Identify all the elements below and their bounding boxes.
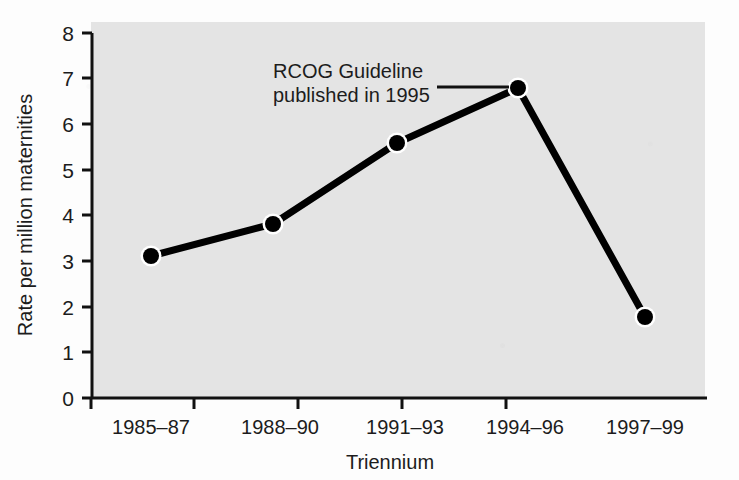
x-tick-label-1985-87: 1985–87 bbox=[112, 416, 190, 438]
figure-page: 8 7 6 5 4 3 2 1 0 Rate per million mater… bbox=[0, 0, 739, 480]
y-tick-label-1: 1 bbox=[62, 341, 74, 364]
y-tick-label-4: 4 bbox=[62, 204, 74, 227]
y-tick-label-8: 8 bbox=[62, 22, 74, 45]
x-axis-ticks bbox=[91, 398, 506, 409]
data-point-1994-96 bbox=[510, 80, 526, 96]
x-tick-label-1994-96: 1994–96 bbox=[486, 416, 564, 438]
y-tick-label-6: 6 bbox=[62, 113, 74, 136]
data-point-1991-93 bbox=[389, 135, 405, 151]
y-tick-label-3: 3 bbox=[62, 250, 74, 273]
data-point-1988-90 bbox=[265, 216, 281, 232]
x-tick-label-1988-90: 1988–90 bbox=[241, 416, 319, 438]
x-tick-label-1997-99: 1997–99 bbox=[606, 416, 684, 438]
annotation-line-2: published in 1995 bbox=[273, 84, 430, 106]
data-point-1985-87 bbox=[143, 248, 159, 264]
x-tick-label-1991-93: 1991–93 bbox=[366, 416, 444, 438]
y-tick-label-5: 5 bbox=[62, 159, 74, 182]
x-axis-title: Triennium bbox=[346, 451, 434, 473]
y-tick-label-2: 2 bbox=[62, 296, 74, 319]
annotation-line-1: RCOG Guideline bbox=[273, 60, 423, 82]
data-point-1997-99 bbox=[637, 309, 653, 325]
y-tick-label-7: 7 bbox=[62, 67, 74, 90]
x-axis-category-labels: 1985–87 1988–90 1991–93 1994–96 1997–99 bbox=[112, 416, 684, 438]
line-chart: 8 7 6 5 4 3 2 1 0 Rate per million mater… bbox=[0, 0, 739, 480]
y-axis-tick-labels: 8 7 6 5 4 3 2 1 0 bbox=[62, 22, 74, 410]
y-axis-title: Rate per million maternities bbox=[14, 94, 36, 336]
y-tick-label-0: 0 bbox=[62, 387, 74, 410]
